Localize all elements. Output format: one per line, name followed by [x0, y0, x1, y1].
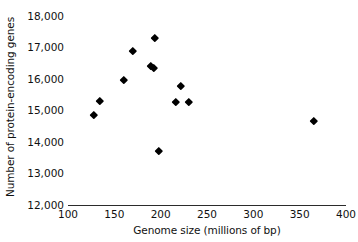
x-axis-tick-label: 350	[280, 208, 320, 220]
x-axis-tick-label: 250	[187, 208, 227, 220]
x-axis-tick-label: 100	[48, 208, 88, 220]
x-axis-tick-labels: 100150200250300350400	[0, 0, 358, 242]
x-axis-tick-label: 200	[141, 208, 181, 220]
x-axis-tick-label: 150	[94, 208, 134, 220]
scatter-plot-figure: Number of protein-encoding genes 12,0001…	[0, 0, 358, 242]
x-axis-tick-label: 300	[233, 208, 273, 220]
x-axis-title: Genome size (millions of bp)	[68, 224, 346, 236]
x-axis-tick-label: 400	[326, 208, 358, 220]
